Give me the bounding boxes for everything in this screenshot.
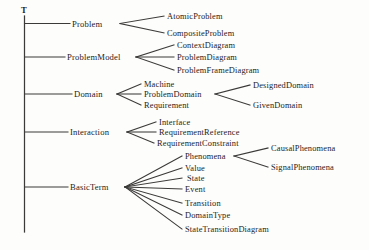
node-interaction: Interaction [70,128,109,137]
edge-phenomena-causalphenomena [234,148,268,156]
node-requirement-constraint: RequirementConstraint [157,139,239,148]
node-basic-term: BasicTerm [70,183,109,192]
edge-problem-atomicproblem [120,16,164,24]
node-state-transition-diagram: StateTransitionDiagram [185,225,269,234]
node-requirement-reference: RequirementReference [159,128,240,137]
node-state: State [187,174,205,183]
node-context-diagram: ContextDiagram [177,41,235,50]
node-phenomena: Phenomena [185,152,226,161]
node-machine: Machine [144,80,174,89]
edge-domain-machine [117,84,141,94]
node-problem-frame-diagram: ProblemFrameDiagram [177,66,259,75]
taxonomy-tree-diagram: T Problem ProblemModel Domain Interactio… [0,0,369,250]
node-domain: Domain [74,90,103,99]
node-given-domain: GivenDomain [253,101,302,110]
node-causal-phenomena: CausalPhenomena [271,144,335,153]
node-atomic-problem: AtomicProblem [167,12,223,21]
node-requirement: Requirement [144,101,189,110]
node-transition: Transition [185,199,221,208]
edge-interaction-requirementconstraint [127,132,154,143]
node-value: Value [185,164,205,173]
node-event: Event [185,185,205,194]
node-problem-model: ProblemModel [67,53,121,62]
edge-problemmodel-problemframediagram [136,57,174,70]
node-problem-domain: ProblemDomain [144,90,202,99]
edge-problemdomain-givendomain [215,94,250,105]
edge-basicterm-statetransitiondiagram [125,187,182,229]
edge-interaction-interface [127,122,156,132]
node-root: T [21,6,27,15]
node-designed-domain: DesignedDomain [253,81,314,90]
edge-phenomena-signalphenomena [234,156,268,167]
edge-basicterm-value [125,168,182,187]
edge-basicterm-event [125,187,182,189]
node-interface: Interface [159,118,190,127]
node-problem-diagram: ProblemDiagram [177,53,237,62]
node-signal-phenomena: SignalPhenomena [271,163,334,172]
node-domain-type: DomainType [185,211,230,220]
edge-problemmodel-contextdiagram [136,45,174,57]
node-problem: Problem [72,19,102,28]
node-composite-problem: CompositeProblem [167,29,234,38]
edge-problem-compositeproblem [120,24,164,34]
edge-problemdomain-designeddomain [215,85,250,94]
edge-domain-requirement [117,94,141,105]
